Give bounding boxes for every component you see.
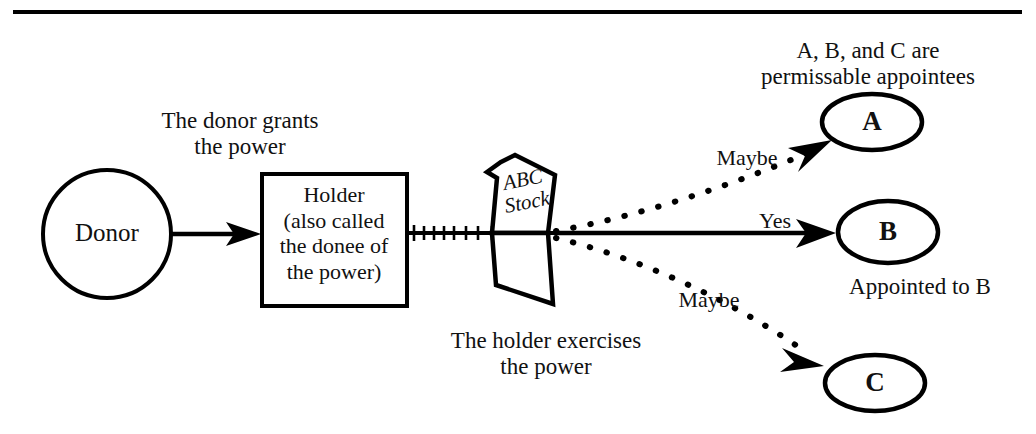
caption-holder-exercises: The holder exercises the power xyxy=(396,328,696,380)
edge-label-maybe-c: Maybe xyxy=(649,288,769,313)
appointee-b-label: B xyxy=(858,216,918,246)
edge-label-maybe-a: Maybe xyxy=(687,146,807,171)
holder-label: Holder (also called the donee of the pow… xyxy=(259,182,409,284)
maybe-c-edge-arrowhead xyxy=(780,348,824,372)
caption-permissable-appointees: A, B, and C are permissable appointees xyxy=(703,38,1033,90)
donor-label: Donor xyxy=(32,219,182,247)
stock-document-lower xyxy=(492,233,553,304)
edge-label-yes: Yes xyxy=(735,209,815,234)
appointee-a-label: A xyxy=(842,106,902,136)
stock-document-label-wrapper: ABC Stock xyxy=(470,168,580,214)
caption-donor-grants: The donor grants the power xyxy=(110,108,370,160)
caption-appointed-to-b: Appointed to B xyxy=(805,274,1035,300)
appointee-c-label: C xyxy=(845,367,905,397)
diagram-canvas: The donor grants the power Donor Holder … xyxy=(0,0,1036,434)
